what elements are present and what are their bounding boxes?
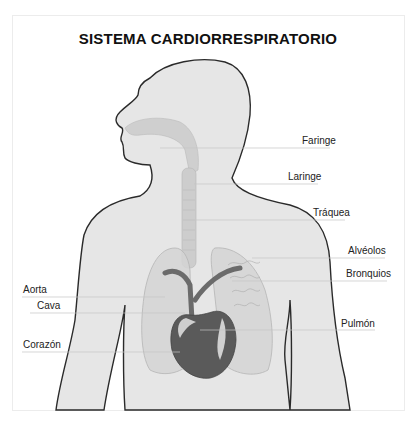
label-traquea: Tráquea [313,207,350,218]
label-aorta: Aorta [23,284,47,295]
label-bronquios: Bronquios [346,268,391,279]
human-body-illustration [0,0,416,444]
label-corazon: Corazón [23,339,61,350]
label-laringe: Laringe [288,171,321,182]
label-faringe: Faringe [302,135,336,146]
label-cava: Cava [37,300,60,311]
label-alveolos: Alvéolos [348,245,386,256]
label-pulmon: Pulmón [341,318,375,329]
